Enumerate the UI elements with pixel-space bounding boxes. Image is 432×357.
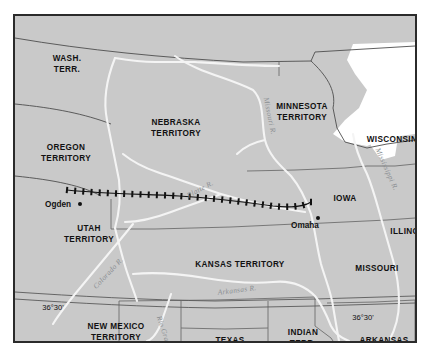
city-dot-omaha	[316, 216, 320, 220]
city-label-omaha: Omaha	[291, 221, 319, 230]
historical-map-figure: WASH.TERR. OREGONTERRITORY UTAHTERRITORY…	[0, 0, 432, 357]
map-frame: WASH.TERR. OREGONTERRITORY UTAHTERRITORY…	[13, 14, 417, 343]
city-dot-ogden	[78, 202, 82, 206]
map-geography-svg	[15, 16, 415, 341]
latitude-label-36-30-west: 36°30'	[42, 303, 63, 312]
city-label-ogden: Ogden	[45, 200, 71, 209]
latitude-label-36-30-east: 36°30'	[352, 313, 373, 322]
